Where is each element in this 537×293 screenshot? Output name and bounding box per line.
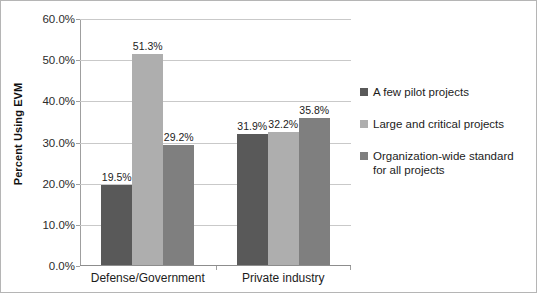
y-axis-tick (76, 19, 80, 20)
y-axis-title-text: Percent Using EVM (12, 82, 24, 185)
y-axis-tick-label: 20.0% (29, 178, 75, 190)
plot-area: 19.5%51.3%29.2%31.9%32.2%35.8% (80, 19, 351, 266)
bar-chart: Percent Using EVM 0.0%10.0%20.0%30.0%40.… (0, 0, 537, 293)
bar-value-label: 29.2% (164, 131, 194, 143)
legend-item[interactable]: Large and critical projects (360, 117, 532, 131)
bar (299, 118, 330, 265)
y-axis-tick (76, 266, 80, 267)
y-axis-tick-label: 60.0% (29, 13, 75, 25)
x-axis-category-label: Defense/Government (91, 271, 205, 285)
bar (268, 132, 299, 265)
bar (101, 185, 132, 265)
bar-value-label: 31.9% (237, 120, 267, 132)
legend-label: Organization-wide standardfor all projec… (373, 149, 514, 177)
legend-label: Large and critical projects (373, 117, 504, 131)
gridline (80, 101, 351, 102)
bar-value-label: 32.2% (268, 118, 298, 130)
legend-swatch-icon (360, 152, 368, 160)
legend-swatch-icon (360, 88, 368, 96)
bar-value-label: 19.5% (102, 171, 132, 183)
legend-swatch-icon (360, 120, 368, 128)
y-axis-tick (76, 101, 80, 102)
y-axis-tick-label: 50.0% (29, 54, 75, 66)
y-axis-tick-label: 0.0% (29, 260, 75, 272)
x-axis-tick (216, 266, 217, 270)
legend-item[interactable]: Organization-wide standardfor all projec… (360, 149, 532, 177)
bar-value-label: 51.3% (133, 40, 163, 52)
gridline (80, 60, 351, 61)
y-axis-tick (76, 184, 80, 185)
y-axis-tick (76, 225, 80, 226)
bar (132, 54, 163, 265)
legend-item[interactable]: A few pilot projects (360, 85, 532, 99)
legend-label: A few pilot projects (373, 85, 469, 99)
bar-value-label: 35.8% (299, 104, 329, 116)
y-axis-tick-label: 30.0% (29, 137, 75, 149)
x-axis-category-label: Private industry (242, 271, 325, 285)
y-axis-tick (76, 143, 80, 144)
x-axis-tick (350, 266, 351, 270)
bar (237, 134, 268, 265)
y-axis-tick (76, 60, 80, 61)
y-axis-tick-label: 40.0% (29, 95, 75, 107)
gridline (80, 19, 351, 20)
legend: A few pilot projectsLarge and critical p… (360, 85, 532, 195)
y-axis-tick-labels: 0.0%10.0%20.0%30.0%40.0%50.0%60.0% (25, 1, 75, 293)
bar (163, 145, 194, 265)
y-axis-tick-label: 10.0% (29, 219, 75, 231)
